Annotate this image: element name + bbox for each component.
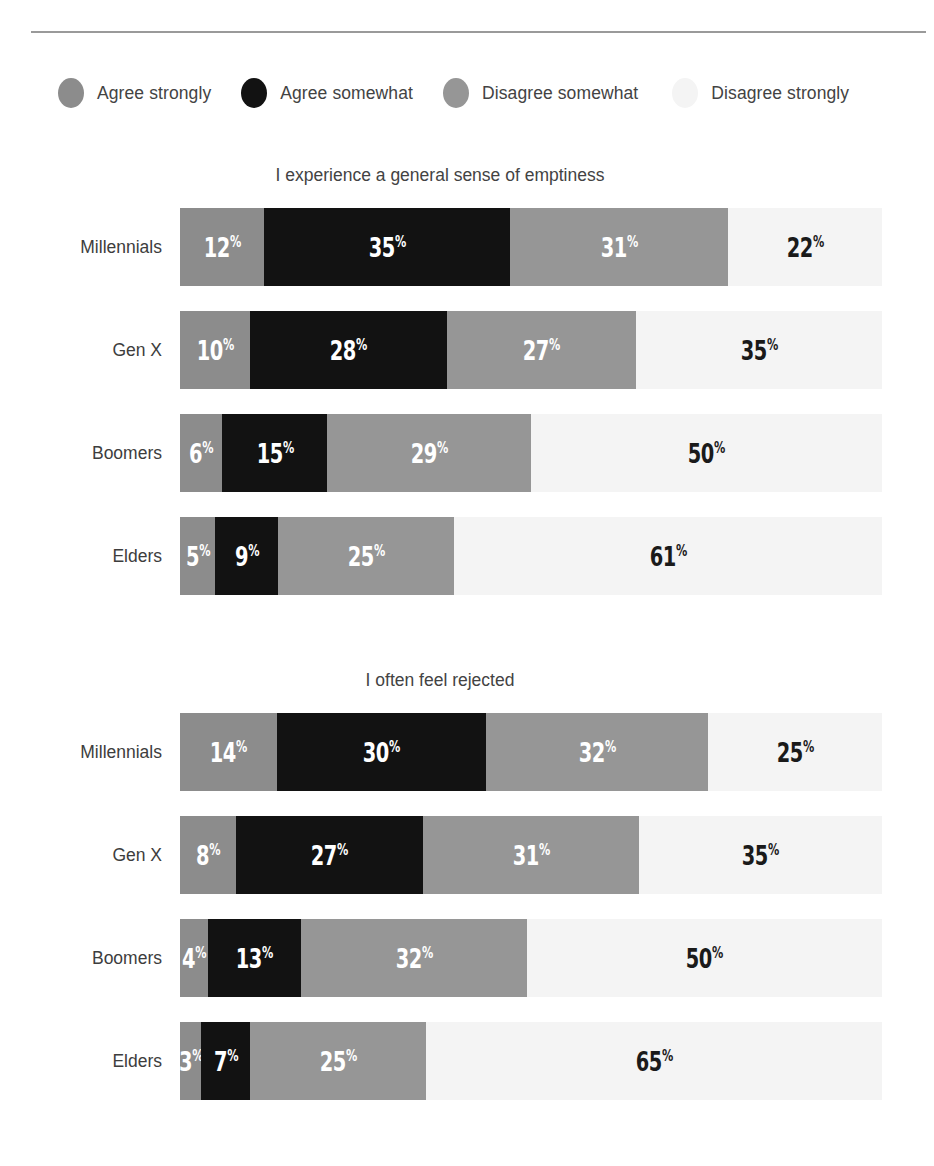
bar-segment-disagree_strongly: 35% xyxy=(636,311,882,389)
bar-segment-disagree_strongly: 22% xyxy=(728,208,882,286)
bar-segment-disagree_somewhat: 25% xyxy=(278,517,454,595)
bar-segment-agree_somewhat: 27% xyxy=(236,816,424,894)
segment-value-label: 35% xyxy=(742,842,779,869)
chart-row: Millennials14%30%32%25% xyxy=(0,713,934,791)
chart-rows: Millennials14%30%32%25%Gen X8%27%31%35%B… xyxy=(0,713,934,1100)
header-divider xyxy=(31,31,926,33)
legend-swatch-agree_strongly-icon xyxy=(58,78,84,108)
segment-value-label: 15% xyxy=(256,440,293,467)
chart-title: I often feel rejected xyxy=(0,665,934,695)
category-label-boomers: Boomers xyxy=(0,948,180,969)
segment-value-label: 61% xyxy=(649,543,686,570)
stacked-bar: 8%27%31%35% xyxy=(180,816,882,894)
chart-rejected: I often feel rejected Millennials14%30%3… xyxy=(0,665,934,1100)
segment-value-label: 27% xyxy=(311,842,348,869)
stacked-bar: 12%35%31%22% xyxy=(180,208,882,286)
bar-segment-agree_strongly: 8% xyxy=(180,816,236,894)
bar-segment-disagree_somewhat: 25% xyxy=(250,1022,426,1100)
segment-value-label: 25% xyxy=(777,739,814,766)
chart-row: Millennials12%35%31%22% xyxy=(0,208,934,286)
bar-segment-disagree_strongly: 50% xyxy=(531,414,882,492)
bar-segment-disagree_somewhat: 32% xyxy=(486,713,708,791)
legend-label: Agree somewhat xyxy=(280,83,413,104)
segment-value-label: 65% xyxy=(635,1048,672,1075)
category-label-boomers: Boomers xyxy=(0,443,180,464)
bar-segment-disagree_somewhat: 31% xyxy=(510,208,728,286)
chart-emptiness: I experience a general sense of emptines… xyxy=(0,160,934,595)
stacked-bar: 5%9%25%61% xyxy=(180,517,882,595)
bar-segment-disagree_somewhat: 32% xyxy=(301,919,528,997)
legend-swatch-disagree_somewhat-icon xyxy=(443,78,469,108)
bar-segment-agree_strongly: 4% xyxy=(180,919,208,997)
segment-value-label: 31% xyxy=(512,842,549,869)
segment-value-label: 50% xyxy=(688,440,725,467)
segment-value-label: 29% xyxy=(411,440,448,467)
bar-segment-agree_somewhat: 13% xyxy=(208,919,300,997)
segment-value-label: 13% xyxy=(236,945,273,972)
bar-segment-agree_somewhat: 9% xyxy=(215,517,278,595)
bar-segment-agree_somewhat: 15% xyxy=(222,414,327,492)
segment-value-label: 50% xyxy=(686,945,723,972)
legend-label: Disagree somewhat xyxy=(482,83,638,104)
bar-segment-disagree_strongly: 50% xyxy=(527,919,882,997)
bar-segment-disagree_somewhat: 29% xyxy=(327,414,531,492)
category-label-millennials: Millennials xyxy=(0,237,180,258)
chart-row: Boomers6%15%29%50% xyxy=(0,414,934,492)
segment-value-label: 32% xyxy=(395,945,432,972)
category-label-millennials: Millennials xyxy=(0,742,180,763)
bar-segment-disagree_strongly: 65% xyxy=(426,1022,882,1100)
chart-rows: Millennials12%35%31%22%Gen X10%28%27%35%… xyxy=(0,208,934,595)
legend-label: Disagree strongly xyxy=(711,83,849,104)
bar-segment-agree_somewhat: 35% xyxy=(264,208,510,286)
stacked-bar: 14%30%32%25% xyxy=(180,713,882,791)
chart-title: I experience a general sense of emptines… xyxy=(0,160,934,190)
segment-value-label: 31% xyxy=(600,234,637,261)
bar-segment-agree_somewhat: 28% xyxy=(250,311,447,389)
stacked-bar: 6%15%29%50% xyxy=(180,414,882,492)
chart-row: Gen X10%28%27%35% xyxy=(0,311,934,389)
chart-row: Gen X8%27%31%35% xyxy=(0,816,934,894)
bar-segment-agree_strongly: 12% xyxy=(180,208,264,286)
stacked-bar: 10%28%27%35% xyxy=(180,311,882,389)
bar-segment-agree_somewhat: 7% xyxy=(201,1022,250,1100)
bar-segment-agree_strongly: 5% xyxy=(180,517,215,595)
segment-value-label: 7% xyxy=(214,1048,238,1075)
bar-segment-agree_strongly: 10% xyxy=(180,311,250,389)
segment-value-label: 30% xyxy=(363,739,400,766)
segment-value-label: 35% xyxy=(369,234,406,261)
chart-row: Boomers4%13%32%50% xyxy=(0,919,934,997)
bar-segment-disagree_somewhat: 31% xyxy=(423,816,638,894)
bar-segment-agree_strongly: 3% xyxy=(180,1022,201,1100)
category-label-elders: Elders xyxy=(0,546,180,567)
legend-swatch-disagree_strongly-icon xyxy=(672,78,698,108)
category-label-elders: Elders xyxy=(0,1051,180,1072)
segment-value-label: 27% xyxy=(523,337,560,364)
segment-value-label: 22% xyxy=(786,234,823,261)
legend-swatch-agree_somewhat-icon xyxy=(241,78,267,108)
segment-value-label: 28% xyxy=(330,337,367,364)
segment-value-label: 4% xyxy=(182,945,206,972)
stacked-bar: 4%13%32%50% xyxy=(180,919,882,997)
chart-row: Elders3%7%25%65% xyxy=(0,1022,934,1100)
chart-row: Elders5%9%25%61% xyxy=(0,517,934,595)
legend-item-disagree_somewhat: Disagree somewhat xyxy=(443,78,638,108)
legend-label: Agree strongly xyxy=(97,83,211,104)
bar-segment-agree_strongly: 14% xyxy=(180,713,277,791)
segment-value-label: 6% xyxy=(189,440,213,467)
legend-item-agree_strongly: Agree strongly xyxy=(58,78,211,108)
segment-value-label: 9% xyxy=(235,543,259,570)
segment-value-label: 32% xyxy=(578,739,615,766)
segment-value-label: 35% xyxy=(741,337,778,364)
segment-value-label: 5% xyxy=(186,543,210,570)
legend: Agree stronglyAgree somewhatDisagree som… xyxy=(0,76,934,110)
segment-value-label: 14% xyxy=(210,739,247,766)
segment-value-label: 8% xyxy=(196,842,220,869)
legend-item-agree_somewhat: Agree somewhat xyxy=(241,78,413,108)
segment-value-label: 25% xyxy=(347,543,384,570)
chart-page: Agree stronglyAgree somewhatDisagree som… xyxy=(0,0,934,1166)
bar-segment-disagree_strongly: 61% xyxy=(454,517,882,595)
bar-segment-disagree_somewhat: 27% xyxy=(447,311,637,389)
segment-value-label: 12% xyxy=(204,234,241,261)
segment-value-label: 3% xyxy=(180,1048,203,1075)
segment-value-label: 25% xyxy=(319,1048,356,1075)
